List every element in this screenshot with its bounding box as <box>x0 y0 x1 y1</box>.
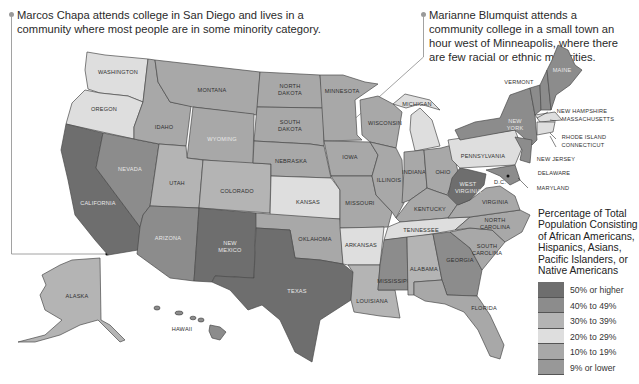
legend-item: 40% to 49% <box>538 298 639 314</box>
svg-text:MAINE: MAINE <box>553 67 572 73</box>
state-alaska: ALASKA <box>18 258 125 342</box>
svg-text:NEW: NEW <box>223 240 237 246</box>
state-maine: MAINE <box>547 45 582 110</box>
state-new-mexico: NEW MEXICO <box>194 208 256 282</box>
svg-text:OHIO: OHIO <box>435 169 451 175</box>
legend-swatch <box>538 313 564 329</box>
svg-text:TEXAS: TEXAS <box>287 288 306 294</box>
svg-text:MISSOURI: MISSOURI <box>345 200 375 206</box>
state-connecticut-ri <box>537 122 555 135</box>
svg-text:MEXICO: MEXICO <box>218 247 242 253</box>
svg-text:OKLAHOMA: OKLAHOMA <box>298 236 331 242</box>
svg-text:MONTANA: MONTANA <box>198 87 227 93</box>
svg-text:DAKOTA: DAKOTA <box>278 90 302 96</box>
svg-text:NEW JERSEY: NEW JERSEY <box>537 156 575 162</box>
legend-swatch <box>538 360 564 376</box>
svg-text:ILLINOIS: ILLINOIS <box>377 177 402 183</box>
svg-text:WASHINGTON: WASHINGTON <box>98 69 138 75</box>
svg-text:GEORGIA: GEORGIA <box>446 257 474 263</box>
svg-text:SOUTH: SOUTH <box>280 119 301 125</box>
svg-text:DAKOTA: DAKOTA <box>278 126 302 132</box>
svg-text:COLORADO: COLORADO <box>220 188 254 194</box>
svg-text:CALIFORNIA: CALIFORNIA <box>80 200 116 206</box>
state-arizona: ARIZONA <box>137 206 199 281</box>
svg-text:NEVADA: NEVADA <box>118 166 142 172</box>
svg-text:SOUTH: SOUTH <box>477 243 498 249</box>
state-hawaii: HAWAII <box>154 306 226 340</box>
svg-text:PENNSYLVANIA: PENNSYLVANIA <box>461 153 506 159</box>
legend-item: 30% to 39% <box>538 313 639 329</box>
svg-text:NEW: NEW <box>508 118 522 124</box>
svg-text:FLORIDA: FLORIDA <box>471 305 497 311</box>
svg-text:KANSAS: KANSAS <box>296 199 320 205</box>
svg-text:IDAHO: IDAHO <box>155 124 174 130</box>
state-iowa: IOWA <box>324 141 378 176</box>
svg-text:OREGON: OREGON <box>91 106 117 112</box>
svg-text:LOUISIANA: LOUISIANA <box>356 298 388 304</box>
svg-text:ALASKA: ALASKA <box>66 293 89 299</box>
svg-text:UTAH: UTAH <box>169 180 185 186</box>
svg-text:CONNECTICUT: CONNECTICUT <box>562 142 605 148</box>
svg-text:MICHIGAN: MICHIGAN <box>402 101 432 107</box>
state-arkansas: ARKANSAS <box>340 227 384 265</box>
svg-text:INDIANA: INDIANA <box>402 169 426 175</box>
legend-title: Percentage of Total Population Consistin… <box>538 208 639 276</box>
legend-item: 50% or higher <box>538 282 639 298</box>
svg-text:MINNESOTA: MINNESOTA <box>325 88 360 94</box>
state-south-dakota: SOUTH DAKOTA <box>254 107 324 146</box>
state-north-dakota: NORTH DAKOTA <box>257 72 324 108</box>
legend-swatch <box>538 298 564 314</box>
legend-swatch <box>538 344 564 360</box>
svg-text:NEW HAMPSHIRE: NEW HAMPSHIRE <box>557 108 608 114</box>
svg-text:ARIZONA: ARIZONA <box>155 235 181 241</box>
svg-text:MARYLAND: MARYLAND <box>537 185 570 191</box>
svg-text:WYOMING: WYOMING <box>207 136 236 142</box>
svg-text:WEST: WEST <box>460 181 477 187</box>
legend-swatch <box>538 282 564 298</box>
svg-text:NEBRASKA: NEBRASKA <box>275 158 307 164</box>
svg-text:CAROLINA: CAROLINA <box>472 250 502 256</box>
svg-text:VIRGINIA: VIRGINIA <box>455 188 481 194</box>
legend-item: 10% to 19% <box>538 344 639 360</box>
svg-text:D.C.: D.C. <box>494 179 506 185</box>
legend-swatch <box>538 329 564 345</box>
svg-text:TENNESSEE: TENNESSEE <box>403 227 439 233</box>
map-legend: Percentage of Total Population Consistin… <box>538 208 639 375</box>
svg-text:NORTH: NORTH <box>485 217 506 223</box>
svg-text:IOWA: IOWA <box>342 154 358 160</box>
svg-text:NORTH: NORTH <box>280 83 301 89</box>
legend-item: 9% or lower <box>538 360 639 376</box>
svg-text:RHODE ISLAND: RHODE ISLAND <box>562 134 606 140</box>
state-colorado: COLORADO <box>199 160 271 213</box>
svg-text:ALABAMA: ALABAMA <box>410 266 438 272</box>
svg-text:YORK: YORK <box>507 125 524 131</box>
svg-text:VIRGINIA: VIRGINIA <box>482 199 508 205</box>
legend-item: 20% to 29% <box>538 329 639 345</box>
svg-text:MASSACHUSETTS: MASSACHUSETTS <box>562 116 614 122</box>
svg-text:CAROLINA: CAROLINA <box>480 224 510 230</box>
svg-text:KENTUCKY: KENTUCKY <box>414 206 446 212</box>
state-wyoming: WYOMING <box>187 107 254 165</box>
svg-text:DELAWARE: DELAWARE <box>538 170 571 176</box>
svg-text:HAWAII: HAWAII <box>172 326 193 332</box>
svg-text:WISCONSIN: WISCONSIN <box>368 120 402 126</box>
svg-text:ARKANSAS: ARKANSAS <box>345 242 377 248</box>
state-kansas: KANSAS <box>270 176 340 219</box>
svg-text:VERMONT: VERMONT <box>504 79 534 85</box>
